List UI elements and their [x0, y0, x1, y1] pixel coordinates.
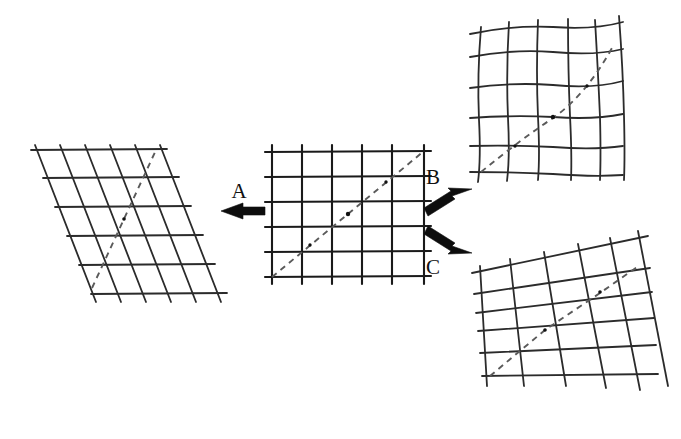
- center-grid-node-dot: [384, 180, 387, 183]
- arrow-b-label: B: [426, 165, 440, 189]
- grid-c-node-dot: [543, 328, 547, 332]
- center-grid-node-dot: [308, 243, 311, 246]
- center-grid-node-dot: [346, 212, 350, 216]
- figure-canvas: A B C: [0, 0, 681, 439]
- grid-b-node-dot: [551, 115, 555, 119]
- arrow-a-label: A: [231, 179, 247, 203]
- grid-a-node-dot: [122, 217, 126, 221]
- grid-c-node-dot: [598, 290, 602, 294]
- grid-b-node-dot: [585, 84, 588, 87]
- grid-b-node-dot: [513, 144, 516, 147]
- transformation-diagram: A B C: [0, 0, 681, 439]
- arrow-c-label: C: [426, 255, 440, 279]
